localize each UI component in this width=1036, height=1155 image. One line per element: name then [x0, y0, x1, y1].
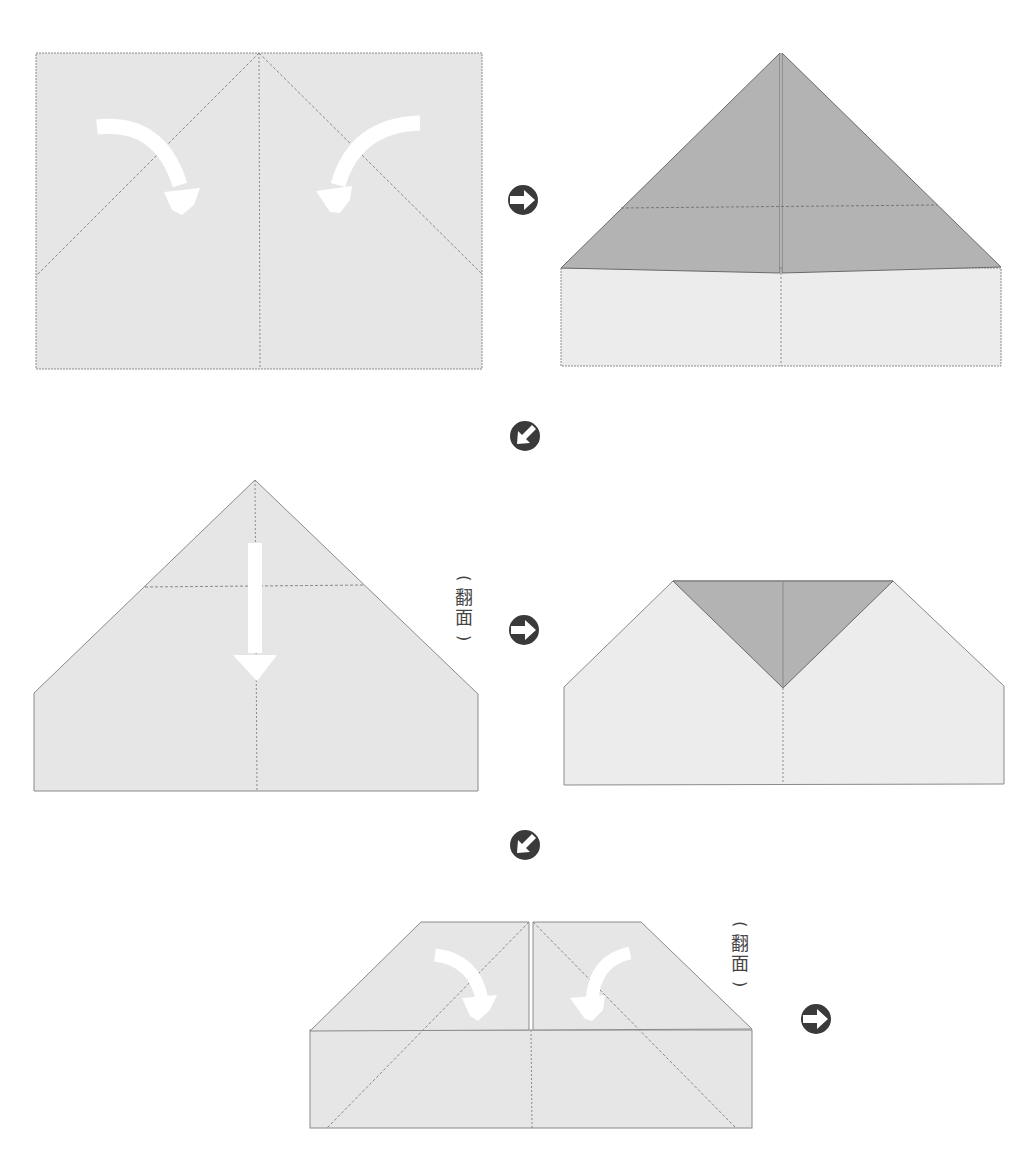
step-arrow-down-left-icon: [510, 830, 540, 860]
step-4-paper: [564, 581, 1004, 785]
step-arrow-right-icon: [509, 615, 539, 645]
step-arrow-down-left-icon: [510, 421, 540, 451]
origami-diagram: [0, 0, 1036, 1155]
step-3-paper: [34, 480, 478, 791]
step-arrow-right-icon: [801, 1004, 831, 1034]
step-arrow-right-icon: [508, 185, 538, 215]
step-5-paper: [310, 922, 752, 1128]
step-1-paper: [36, 53, 482, 369]
flip-over-label: ( 翻 面 ): [729, 914, 751, 994]
flip-over-label: ( 翻 面 ): [453, 568, 475, 648]
step-2-paper: [561, 53, 1001, 366]
